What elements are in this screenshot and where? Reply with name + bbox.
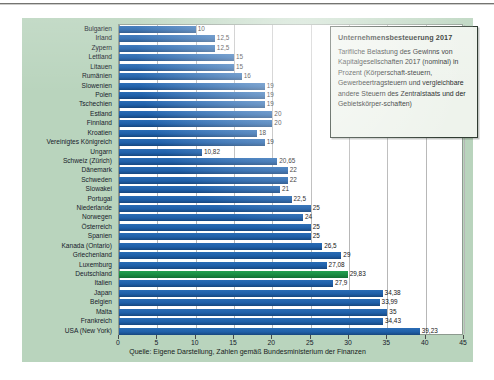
category-label: Slowakei xyxy=(86,184,112,193)
bar-value-label: 16 xyxy=(242,71,251,81)
source-note: Quelle: Eigene Darstellung, Zahlen gemäß… xyxy=(22,348,473,355)
bar-value-label: 22,5 xyxy=(292,194,306,204)
bar-value-label: 12,5 xyxy=(215,43,229,53)
bar-row: 29 xyxy=(119,251,462,260)
category-label: Estland xyxy=(90,109,112,118)
bar-row: 34,43 xyxy=(119,317,462,326)
category-label: Schweiz (Zürich) xyxy=(63,156,112,165)
bar-row: 35 xyxy=(119,308,462,317)
category-label: Frankreich xyxy=(81,316,112,325)
bar xyxy=(119,167,288,174)
bar-value-label: 19 xyxy=(265,137,274,147)
bar-highlight xyxy=(119,271,348,278)
bar-row: 22,5 xyxy=(119,195,462,204)
bar xyxy=(119,252,341,259)
bar xyxy=(119,35,215,42)
bar-value-label: 25 xyxy=(311,231,320,241)
bar-value-label: 34,43 xyxy=(383,316,401,326)
legend-callout-box: Unternehmensbesteuerung 2017 Tarifliche … xyxy=(330,26,478,138)
category-axis-labels: BulgarienIrlandZypernLettlandLitauenRumä… xyxy=(22,24,116,335)
bar-row: 25 xyxy=(119,223,462,232)
category-label: Japan xyxy=(94,288,112,297)
category-label: Litauen xyxy=(90,62,112,71)
axis-tick-label: 40 xyxy=(421,339,429,346)
bar xyxy=(119,139,265,146)
category-label: Spanien xyxy=(88,231,112,240)
bar xyxy=(119,224,311,231)
bar xyxy=(119,299,380,306)
axis-tick-label: 0 xyxy=(116,339,120,346)
category-label: Bulgarien xyxy=(84,24,112,33)
category-label: Tschechien xyxy=(79,99,112,108)
category-label: Italien xyxy=(94,278,112,287)
bar xyxy=(119,186,280,193)
category-label: Schweden xyxy=(81,175,112,184)
category-label: Malta xyxy=(96,307,112,316)
category-label: Polen xyxy=(95,90,112,99)
bar xyxy=(119,26,196,33)
category-label: Belgien xyxy=(90,297,112,306)
bar-value-label: 26,5 xyxy=(322,241,336,251)
bar xyxy=(119,158,277,165)
scan-artifact-line-top-secondary xyxy=(0,4,494,5)
category-label: Norwegen xyxy=(82,212,112,221)
bar-row: 33,99 xyxy=(119,298,462,307)
bar-row: 34,38 xyxy=(119,289,462,298)
bar xyxy=(119,328,420,335)
axis-tick-label: 30 xyxy=(344,339,352,346)
axis-tick-label: 10 xyxy=(191,339,199,346)
bar-row: 27,9 xyxy=(119,279,462,288)
bar xyxy=(119,120,272,127)
category-label: Luxemburg xyxy=(79,260,112,269)
bar-row: 27,08 xyxy=(119,261,462,270)
category-label: Kroatien xyxy=(87,128,112,137)
bar-value-label: 27,9 xyxy=(333,278,347,288)
bar xyxy=(119,54,234,61)
category-label: Kanada (Ontario) xyxy=(61,241,112,250)
bar-value-label: 29,83 xyxy=(348,269,366,279)
bar-row: 25 xyxy=(119,204,462,213)
bar-value-label: 20 xyxy=(272,118,281,128)
axis-tick-label: 35 xyxy=(383,339,391,346)
bar xyxy=(119,177,288,184)
bar xyxy=(119,83,265,90)
bar xyxy=(119,45,215,52)
bar xyxy=(119,130,257,137)
bar xyxy=(119,290,383,297)
legend-title: Unternehmensbesteuerung 2017 xyxy=(338,33,470,42)
bar xyxy=(119,262,327,269)
bar-row: 19 xyxy=(119,138,462,147)
bar-value-label: 10 xyxy=(196,24,205,34)
bar xyxy=(119,111,272,118)
category-label: Griechenland xyxy=(73,250,112,259)
category-label: Portugal xyxy=(87,194,112,203)
bar xyxy=(119,196,292,203)
bar-row: 25 xyxy=(119,232,462,241)
chart-figure: BulgarienIrlandZypernLettlandLitauenRumä… xyxy=(22,18,473,362)
bar xyxy=(119,280,333,287)
bar-row: 21 xyxy=(119,185,462,194)
bar-value-label: 21 xyxy=(280,184,289,194)
category-label: Vereinigtes Königreich xyxy=(46,137,112,146)
bar-value-label: 10,82 xyxy=(202,147,220,157)
bar xyxy=(119,318,383,325)
bar-row: 26,5 xyxy=(119,242,462,251)
bar-row: 24 xyxy=(119,213,462,222)
legend-description: Tarifliche Belastung des Gewinns von Kap… xyxy=(338,47,470,109)
category-label: Slowenien xyxy=(82,81,112,90)
category-label: USA (New York) xyxy=(65,326,112,335)
category-label: Deutschland xyxy=(75,269,112,278)
category-label: Niederlande xyxy=(76,203,112,212)
bar-row: 22 xyxy=(119,176,462,185)
bar xyxy=(119,64,234,71)
bar xyxy=(119,73,242,80)
category-label: Irland xyxy=(96,33,113,42)
bar xyxy=(119,309,387,316)
axis-tick-label: 5 xyxy=(154,339,158,346)
bar xyxy=(119,101,265,108)
axis-tick-label: 20 xyxy=(268,339,276,346)
axis-tick-label: 45 xyxy=(459,339,467,346)
bar xyxy=(119,233,311,240)
category-label: Finnland xyxy=(87,118,112,127)
category-label: Lettland xyxy=(89,52,112,61)
